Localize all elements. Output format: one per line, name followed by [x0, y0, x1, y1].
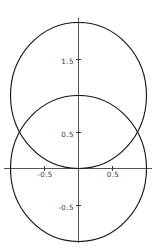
plot-canvas: -0.5 0.5 1.5 0.5 -0.5	[0, 0, 157, 249]
x-tick-label-neg-half: -0.5	[37, 170, 53, 179]
x-tick-label-pos-half: 0.5	[107, 170, 120, 179]
y-tick-label-one-and-half: 1.5	[61, 57, 74, 66]
plot-figure: -0.5 0.5 1.5 0.5 -0.5	[0, 0, 157, 249]
y-tick-label-neg-half: -0.5	[58, 203, 74, 212]
y-tick-label-pos-half: 0.5	[61, 130, 74, 139]
